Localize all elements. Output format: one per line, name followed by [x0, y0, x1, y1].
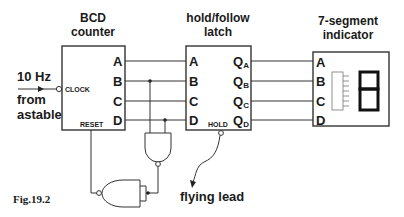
clock-bubble	[56, 86, 61, 91]
indicator-title-line1: 7-segment	[318, 14, 378, 28]
nand-gate-inverter	[102, 180, 140, 207]
counter-pin-b: B	[113, 74, 122, 89]
indicator-title-line2: indicator	[323, 28, 374, 42]
latch-title-line1: hold/follow	[186, 11, 250, 25]
input-astable-label: astable	[17, 107, 62, 122]
counter-pin-d: D	[113, 113, 122, 128]
counter-pin-a: A	[113, 54, 123, 69]
junction-dot-tie	[146, 191, 150, 195]
input-frequency-label: 10 Hz	[17, 69, 51, 84]
reset-pin-label: RESET	[80, 121, 104, 128]
nand-gate-decode	[145, 133, 171, 162]
counter-title-line1: BCD	[80, 11, 106, 25]
hold-bubble	[219, 131, 224, 136]
indicator-input-d: D	[316, 113, 325, 128]
flying-lead-label: flying lead	[180, 189, 244, 204]
counter-pin-c: C	[113, 94, 123, 109]
latch-input-c: C	[189, 94, 199, 109]
figure-caption: Fig.19.2	[13, 193, 51, 205]
indicator-input-b: B	[316, 74, 325, 89]
nand-output-bubble	[156, 162, 161, 167]
arrow-down-icon	[190, 180, 196, 188]
indicator-input-a: A	[316, 55, 326, 70]
latch-title-line2: latch	[204, 25, 232, 39]
clock-pin-label: CLOCK	[65, 86, 90, 93]
indicator-input-c: C	[316, 94, 326, 109]
latch-input-a: A	[189, 54, 199, 69]
counter-title-line2: counter	[71, 25, 115, 39]
flying-lead-wire[interactable]	[193, 136, 220, 183]
latch-input-b: B	[189, 74, 198, 89]
hold-pin-label: HOLD	[208, 121, 228, 128]
latch-input-d: D	[189, 113, 198, 128]
circuit-diagram: BCD counter hold/follow latch 7-segment …	[0, 0, 404, 217]
inverter-output-bubble	[97, 191, 102, 196]
input-from-label: from	[17, 92, 46, 107]
